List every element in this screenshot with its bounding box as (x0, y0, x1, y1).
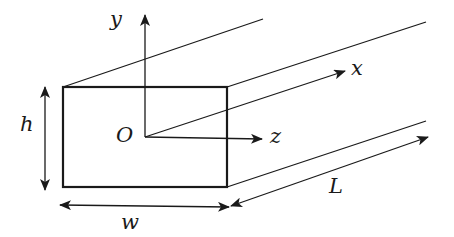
dimension-arrows (45, 87, 428, 207)
width-label: w (121, 212, 139, 233)
extrusion-edges (63, 19, 426, 187)
z-axis-label: z (270, 126, 281, 147)
width-dimension-arrow (60, 205, 229, 207)
coordinate-axes (145, 15, 345, 139)
beam-diagram (0, 0, 454, 237)
height-label: h (20, 114, 34, 135)
bottom-right-extrusion-edge (227, 121, 426, 187)
origin-label: O (116, 125, 133, 146)
y-axis-label: y (110, 9, 122, 30)
top-left-extrusion-edge (63, 19, 263, 87)
x-axis-label: x (351, 58, 363, 79)
z-axis-arrow (145, 137, 262, 139)
length-label: L (329, 176, 343, 197)
